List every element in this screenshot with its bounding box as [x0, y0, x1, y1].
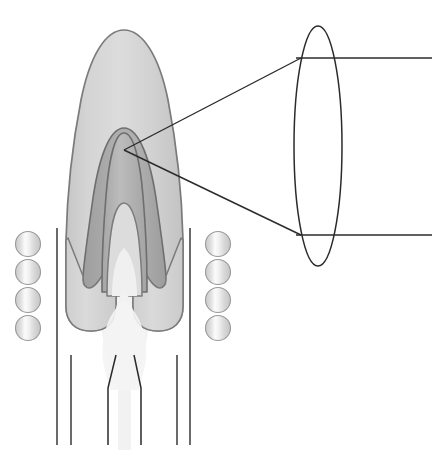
sphere-left-4 [16, 316, 41, 341]
inset-ellipse-outline[interactable] [294, 26, 342, 266]
sphere-left-2 [16, 260, 41, 285]
sphere-right-2 [206, 260, 231, 285]
left-sphere-column [16, 232, 41, 341]
sphere-left-1 [16, 232, 41, 257]
figure-canvas [0, 0, 434, 450]
sphere-right-1 [206, 232, 231, 257]
sphere-left-3 [16, 288, 41, 313]
flame-diagram-svg [0, 0, 434, 450]
sphere-right-4 [206, 316, 231, 341]
magnified-inset-ellipse[interactable] [294, 26, 342, 266]
sphere-right-3 [206, 288, 231, 313]
right-sphere-column [206, 232, 231, 341]
